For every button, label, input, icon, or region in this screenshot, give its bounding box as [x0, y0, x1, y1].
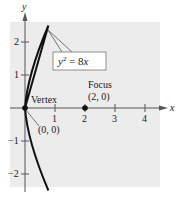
equation-label: y2 = 8x	[57, 55, 89, 67]
vertex-label: Vertex	[31, 94, 57, 105]
x-tick-label-4: 4	[142, 113, 147, 124]
y-tick-label-2: 2	[14, 36, 19, 47]
x-axis-arrow-icon	[159, 106, 168, 111]
focus-label: Focus	[88, 79, 112, 90]
parabola-figure: x y 1 2 3 4 2 1 −1 −2 y2 = 8x Vertex (0,…	[0, 0, 176, 201]
y-axis-label: y	[21, 1, 27, 12]
vertex-point	[22, 105, 28, 111]
x-tick-label-1: 1	[52, 113, 57, 124]
y-tick-label-neg1: −1	[8, 135, 19, 146]
x-axis-label: x	[169, 102, 175, 113]
focus-point	[82, 105, 88, 111]
focus-coords-label: (2, 0)	[88, 91, 110, 103]
vertex-coords-label: (0, 0)	[38, 124, 60, 136]
x-tick-label-3: 3	[112, 113, 117, 124]
y-tick-label-neg2: −2	[8, 168, 19, 179]
x-tick-label-2: 2	[82, 113, 87, 124]
y-tick-label-1: 1	[14, 69, 19, 80]
y-axis-arrow-icon	[23, 12, 28, 21]
